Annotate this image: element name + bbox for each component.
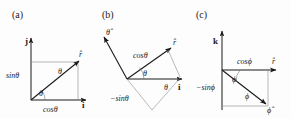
panel-c-angle-lower-label: ϕ: [245, 92, 249, 101]
panel-a-label: (a): [12, 9, 23, 21]
panel-c: (c) k r̂ ϕ̂ cosϕ −sinϕ ϕ ϕ: [196, 9, 276, 115]
panel-b-theta-hat-vector: [104, 37, 127, 79]
panel-b-neg-sin-component-label: −sinθ: [110, 94, 129, 103]
panel-b-construction-right: [168, 50, 180, 77]
panel-c-phi-hat-label: ϕ̂: [267, 106, 274, 115]
panel-a-j-axis-label: j: [24, 36, 28, 46]
panel-b-theta-hat-label: θ̂: [106, 28, 113, 37]
panel-b-cos-component-label: cosθ: [133, 51, 148, 60]
panel-a-r-hat-label: r̂: [79, 50, 83, 59]
panel-c-phi-hat-vector: [222, 70, 266, 104]
panel-b-construction-lower-left: [127, 79, 152, 110]
panel-c-k-axis-label: k: [213, 36, 218, 46]
panel-a-sin-component-label: sinθ: [6, 71, 19, 80]
panel-b-r-hat-label: r̂: [173, 38, 177, 47]
panel-a-angle-origin-label: θ: [39, 89, 43, 98]
panel-c-angle-arc-origin: [236, 70, 240, 82]
panel-c-cos-component-label: cosϕ: [237, 57, 252, 66]
vector-decomposition-figure: (a) j i r̂ sinθ cosθ θ θ (b): [0, 0, 291, 118]
panel-c-neg-sin-component-label: −sinϕ: [196, 83, 215, 92]
panel-b-angle-origin-label: θ: [143, 69, 147, 78]
panel-b-i-axis-label: i: [178, 82, 181, 92]
panel-a: (a) j i r̂ sinθ cosθ θ θ: [6, 9, 86, 114]
panel-c-label: (c): [196, 9, 207, 21]
panel-a-angle-upper-label: θ: [58, 67, 62, 76]
panel-a-cos-component-label: cosθ: [43, 105, 58, 114]
figure-canvas: (a) j i r̂ sinθ cosθ θ θ (b): [0, 0, 291, 118]
panel-b-label: (b): [102, 9, 114, 21]
panel-c-angle-origin-label: ϕ: [232, 75, 236, 84]
panel-b-angle-right-label: θ: [164, 83, 168, 92]
panel-b: (b) i θ̂ r̂ cosθ −sinθ θ θ: [102, 9, 182, 110]
panel-c-r-hat-label: r̂: [272, 57, 276, 66]
panel-a-i-axis-label: i: [82, 100, 85, 110]
